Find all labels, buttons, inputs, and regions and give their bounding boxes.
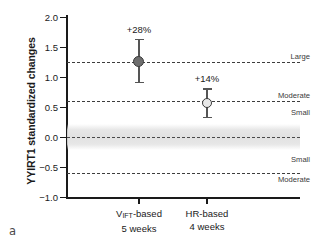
zone-label-small-2: Small — [291, 108, 310, 117]
x-axis-label-1: HR-based4 weeks — [152, 208, 262, 233]
y-tick-label-6: −1.0 — [0, 192, 58, 203]
error-bar-cap-0-upper — [135, 39, 144, 40]
x-axis-label-line1-1: HR-based — [152, 208, 262, 221]
y-tick-0 — [60, 17, 66, 18]
threshold-line-3 — [67, 173, 300, 174]
x-axis-label-line2-1: 4 weeks — [152, 221, 262, 234]
error-bar-cap-1-lower — [203, 117, 212, 118]
y-tick-label-2: 1.0 — [0, 72, 58, 83]
y-tick-label-5: −0.5 — [0, 162, 58, 173]
zone-label-small-3: Small — [291, 155, 310, 164]
zone-label-moderate-4: Moderate — [278, 175, 310, 184]
y-tick-1 — [60, 47, 66, 48]
y-tick-2 — [60, 77, 66, 78]
y-tick-5 — [60, 167, 66, 168]
threshold-line-1 — [67, 101, 300, 102]
y-tick-6 — [60, 197, 66, 198]
threshold-line-0 — [67, 62, 300, 63]
data-point-0[interactable] — [133, 56, 144, 67]
data-label-0: +28% — [99, 24, 179, 35]
error-bar-cap-0-lower — [135, 82, 144, 83]
x-tick-0 — [138, 198, 139, 204]
figure-panel-a: YYIRT1 standardized changes LargeModerat… — [0, 0, 314, 248]
zone-label-large-0: Large — [291, 52, 310, 61]
data-point-1[interactable] — [202, 98, 212, 108]
data-label-1: +14% — [167, 73, 247, 84]
y-tick-label-1: 1.5 — [0, 42, 58, 53]
zone-label-moderate-1: Moderate — [278, 91, 310, 100]
y-tick-label-3: 0.5 — [0, 102, 58, 113]
y-axis-line — [66, 15, 68, 199]
y-tick-label-4: 0.0 — [0, 132, 58, 143]
y-tick-label-0: 2.0 — [0, 12, 58, 23]
x-axis-line — [66, 197, 300, 199]
threshold-line-2 — [67, 137, 300, 138]
y-tick-3 — [60, 107, 66, 108]
error-bar-cap-1-upper — [203, 88, 212, 89]
panel-label: a — [9, 224, 16, 238]
y-tick-4 — [60, 137, 66, 138]
x-tick-1 — [206, 198, 207, 204]
